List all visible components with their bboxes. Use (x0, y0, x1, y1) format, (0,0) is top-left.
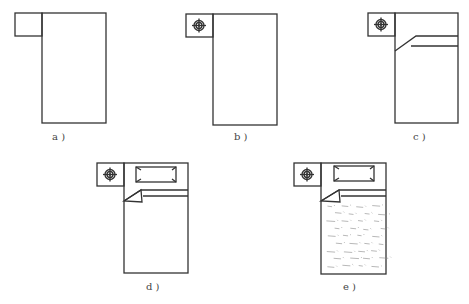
lamp-icon (103, 168, 117, 182)
pattern-mark (374, 220, 382, 222)
pattern-mark (358, 250, 368, 252)
panel-label: c ) (413, 131, 426, 142)
pattern-mark (379, 243, 386, 245)
pattern-mark (334, 257, 344, 259)
pattern-mark (349, 242, 360, 244)
pattern-mark (379, 257, 391, 259)
panel-e: e ) (294, 163, 391, 292)
panel-label: a ) (52, 131, 65, 142)
panel-a: a ) (15, 13, 106, 142)
pattern-mark (344, 251, 355, 253)
quilt-fold (395, 36, 458, 51)
pattern-mark (364, 242, 372, 244)
pattern-mark (342, 220, 352, 222)
lamp-icon (192, 19, 206, 33)
pattern-mark (365, 212, 373, 214)
pattern-mark (343, 234, 351, 236)
panel-b: b ) (186, 14, 277, 142)
quilt-fold (124, 190, 188, 202)
pattern-mark (327, 251, 338, 253)
pattern-mark (349, 213, 357, 215)
bed-frame (42, 13, 106, 123)
quilt-fold (321, 190, 386, 202)
lamp-icon (300, 168, 314, 182)
pattern-mark (350, 257, 362, 259)
pattern-mark (335, 212, 344, 214)
pattern-mark (356, 206, 366, 208)
nightstand (15, 13, 42, 36)
panel-label: b ) (234, 131, 248, 142)
pattern-mark (371, 265, 381, 267)
pattern-mark (327, 205, 334, 207)
pattern-mark (359, 265, 366, 267)
quilt-pattern (326, 205, 391, 268)
pattern-mark (350, 227, 359, 229)
pattern-mark (326, 220, 338, 222)
bed-frame (321, 163, 386, 274)
pattern-mark (363, 228, 371, 230)
pattern-mark (342, 205, 351, 207)
panel-c: c ) (368, 13, 458, 142)
panel-d: d ) (97, 163, 188, 292)
pattern-mark (336, 242, 345, 244)
pattern-mark (381, 227, 389, 229)
pattern-mark (357, 234, 364, 236)
pattern-mark (378, 213, 390, 215)
lamp-icon (374, 18, 388, 32)
pattern-mark (328, 235, 339, 237)
pattern-mark (358, 220, 366, 222)
pattern-mark (335, 227, 343, 229)
pattern-mark (327, 266, 337, 268)
bed-frame (395, 13, 458, 123)
pattern-mark (342, 264, 353, 266)
pattern-mark (371, 250, 380, 252)
bed-drawing-steps: a ) b ) c ) (0, 0, 469, 304)
pillow (136, 167, 176, 182)
panel-label: d ) (146, 281, 160, 292)
panel-label: e ) (343, 281, 356, 292)
pillow (334, 166, 374, 181)
pattern-mark (372, 235, 382, 237)
pattern-mark (363, 257, 373, 259)
bed-frame (213, 14, 277, 125)
pattern-mark (372, 205, 383, 207)
bed-frame (124, 163, 188, 273)
